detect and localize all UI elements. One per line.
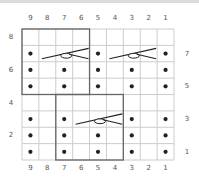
purl-dot-icon — [28, 84, 32, 88]
purl-dot-icon — [163, 68, 167, 72]
purl-dot-icon — [62, 117, 66, 121]
purl-dot-icon — [28, 150, 32, 154]
purl-dot-icon — [62, 68, 66, 72]
cable-cross-line-icon — [103, 120, 122, 125]
purl-dot-icon — [163, 133, 167, 137]
purl-dot-icon — [130, 84, 134, 88]
purl-dot-icon — [62, 150, 66, 154]
purl-dot-icon — [28, 68, 32, 72]
purl-dot-icon — [130, 133, 134, 137]
purl-dot-icon — [96, 150, 100, 154]
purl-dot-icon — [130, 117, 134, 121]
purl-dot-icon — [163, 117, 167, 121]
purl-dot-icon — [28, 133, 32, 137]
purl-dot-icon — [62, 133, 66, 137]
purl-dot-icon — [28, 117, 32, 121]
purl-dot-icon — [28, 51, 32, 55]
knitting-chart-grid — [0, 0, 199, 179]
purl-dot-icon — [96, 84, 100, 88]
purl-dot-icon — [163, 51, 167, 55]
cable-cross-line-icon — [137, 54, 156, 59]
purl-dot-icon — [96, 51, 100, 55]
purl-dot-icon — [96, 68, 100, 72]
purl-dot-icon — [62, 84, 66, 88]
purl-dot-icon — [163, 150, 167, 154]
cable-cross-line-icon — [69, 54, 88, 59]
purl-dot-icon — [96, 133, 100, 137]
purl-dot-icon — [130, 150, 134, 154]
purl-dot-icon — [130, 68, 134, 72]
purl-dot-icon — [163, 84, 167, 88]
